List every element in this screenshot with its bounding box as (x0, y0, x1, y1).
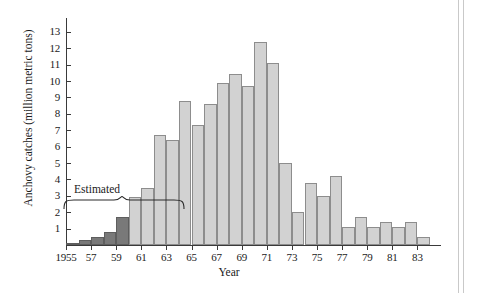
bar (192, 125, 205, 245)
x-tick (317, 245, 318, 250)
x-axis-line (66, 245, 441, 246)
estimated-annotation: Estimated (62, 183, 192, 211)
bar (116, 217, 129, 245)
y-tick-label: 3 (34, 190, 60, 201)
bar (355, 217, 368, 245)
x-tick (392, 245, 393, 250)
x-tick (267, 245, 268, 250)
bar (217, 83, 230, 245)
y-tick-label: 5 (34, 158, 60, 169)
y-tick-label: 9 (34, 92, 60, 103)
bar (91, 237, 104, 245)
bar (305, 183, 318, 245)
x-tick (367, 245, 368, 250)
x-tick (417, 245, 418, 250)
figure: 12345678910111213 1955575961636567697173… (0, 0, 482, 293)
curly-brace-icon (62, 196, 188, 210)
y-tick (66, 97, 71, 98)
estimated-label: Estimated (74, 183, 120, 195)
bar (392, 227, 405, 245)
bar (405, 222, 418, 245)
x-tick (242, 245, 243, 250)
y-tick-label: 10 (34, 76, 60, 87)
bar (279, 163, 292, 245)
y-tick (66, 179, 71, 180)
bar (66, 243, 79, 245)
bar (292, 212, 305, 245)
x-tick (91, 245, 92, 250)
y-tick-label: 6 (34, 141, 60, 152)
y-tick (66, 32, 71, 33)
bar (267, 63, 280, 245)
y-axis-label: Anchovy catches (million metric tons) (22, 18, 34, 218)
y-tick-label: 13 (34, 26, 60, 37)
bar (179, 101, 192, 245)
x-tick (292, 245, 293, 250)
x-tick (342, 245, 343, 250)
bar (104, 232, 117, 245)
bar (342, 227, 355, 245)
y-tick (66, 130, 71, 131)
y-tick (66, 48, 71, 49)
bar (79, 240, 92, 245)
y-tick (66, 81, 71, 82)
bar (229, 74, 242, 245)
x-tick (116, 245, 117, 250)
x-tick (192, 245, 193, 250)
bar (330, 176, 343, 245)
y-tick (66, 65, 71, 66)
x-tick (166, 245, 167, 250)
bar (367, 227, 380, 245)
bar (254, 42, 267, 245)
y-tick (66, 229, 71, 230)
x-tick-label: 83 (397, 252, 437, 263)
y-tick-label: 7 (34, 125, 60, 136)
y-tick (66, 114, 71, 115)
y-tick-label: 8 (34, 108, 60, 119)
bar (380, 222, 393, 245)
y-tick-label: 1 (34, 223, 60, 234)
page-edge-rule-1 (458, 0, 459, 293)
bar (204, 104, 217, 245)
y-tick-label: 11 (34, 59, 60, 70)
x-axis-label: Year (0, 266, 482, 278)
x-axis-label-text: Year (218, 266, 239, 278)
x-tick (66, 245, 67, 250)
page-edge-rule-2 (463, 0, 464, 293)
bar (317, 196, 330, 245)
y-tick-label: 4 (34, 174, 60, 185)
y-tick-label: 12 (34, 43, 60, 54)
bar (417, 237, 430, 245)
y-tick-label: 2 (34, 207, 60, 218)
y-tick (66, 212, 71, 213)
bar (242, 86, 255, 245)
y-tick (66, 163, 71, 164)
x-tick (217, 245, 218, 250)
x-tick (141, 245, 142, 250)
y-tick (66, 147, 71, 148)
